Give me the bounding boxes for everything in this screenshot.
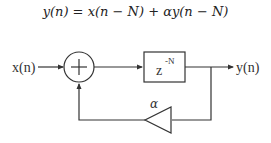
gain-label: α	[150, 97, 158, 111]
delay-block: z -N	[144, 52, 185, 82]
feedback-line-left	[79, 84, 145, 120]
output-label: y(n)	[236, 60, 260, 76]
adder-icon	[64, 52, 94, 82]
delay-base: z	[156, 63, 162, 78]
delay-exponent: -N	[165, 56, 175, 66]
comb-filter-block-diagram: x(n) z -N y(n) α	[0, 0, 271, 143]
input-label: x(n)	[12, 60, 36, 76]
